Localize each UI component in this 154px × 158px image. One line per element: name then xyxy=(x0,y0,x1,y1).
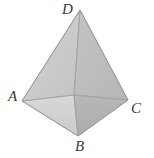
vertex-label-c: C xyxy=(131,101,141,116)
vertex-label-d: D xyxy=(62,2,73,17)
face-lower-left xyxy=(22,95,78,136)
pyramid-solid xyxy=(0,0,154,158)
face-upper-right xyxy=(74,10,128,100)
vertex-label-b: B xyxy=(75,139,84,154)
vertex-label-a: A xyxy=(8,89,17,104)
pyramid-figure: D A C B xyxy=(0,0,154,158)
face-lower-right xyxy=(74,95,128,136)
